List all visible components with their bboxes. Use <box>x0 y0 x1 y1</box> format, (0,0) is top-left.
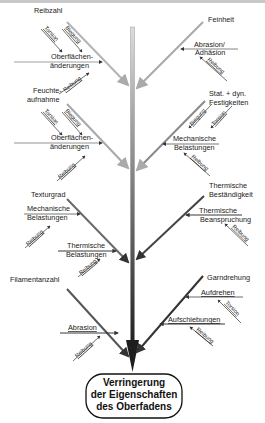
svg-text:Belastungen: Belastungen <box>174 143 215 152</box>
bone-reibzahl: Reibzahl Oberflächen- änderungen Torsion… <box>14 6 128 94</box>
svg-text:Thermische: Thermische <box>209 181 247 190</box>
svg-text:Oberflächen-: Oberflächen- <box>51 52 94 61</box>
bone-garndrehung: Garndrehung Aufdrehen Torsion Aufschiebu… <box>137 273 250 352</box>
bone-thermische-bestaendigkeit: Thermische Beständigkeit Thermische Bean… <box>137 181 253 259</box>
svg-text:Beanspruchung: Beanspruchung <box>200 215 251 224</box>
svg-text:Biegung: Biegung <box>188 107 206 126</box>
spine <box>126 27 139 372</box>
svg-text:Reibung: Reibung <box>57 161 77 179</box>
svg-text:Festigkeiten: Festigkeiten <box>209 98 248 107</box>
svg-text:Verringerung: Verringerung <box>103 377 165 388</box>
svg-text:Abrasion: Abrasion <box>68 323 97 332</box>
svg-text:des Oberfadens: des Oberfadens <box>96 401 172 412</box>
fishbone-diagram: Reibzahl Oberflächen- änderungen Torsion… <box>0 0 265 423</box>
svg-text:Reibung: Reibung <box>25 228 45 246</box>
svg-text:Reibung: Reibung <box>78 258 98 276</box>
svg-text:Oberflächen-: Oberflächen- <box>51 133 94 142</box>
svg-text:Reibung: Reibung <box>62 75 82 93</box>
svg-text:Reibung: Reibung <box>190 153 210 171</box>
bone-texturgrad: Texturgrad Mechanische Belastungen Reibu… <box>24 190 128 277</box>
svg-text:der Eigenschaften: der Eigenschaften <box>91 389 178 400</box>
svg-text:Beständigkeit: Beständigkeit <box>209 190 253 199</box>
effect-box: Verringerung der Eigenschaften des Oberf… <box>86 374 182 418</box>
svg-text:Thermische: Thermische <box>67 241 105 250</box>
cause-label-reibzahl: Reibzahl <box>34 6 63 15</box>
svg-text:Texturgrad: Texturgrad <box>31 190 65 199</box>
svg-text:Aufschiebungen: Aufschiebungen <box>168 315 220 324</box>
svg-text:Reibung: Reibung <box>195 326 215 344</box>
svg-text:Mechanische: Mechanische <box>173 134 216 143</box>
svg-text:Mechanische: Mechanische <box>27 204 70 213</box>
svg-text:Torsion: Torsion <box>224 300 241 317</box>
svg-text:Garndrehung: Garndrehung <box>207 273 250 282</box>
svg-text:Torsion: Torsion <box>43 108 60 125</box>
svg-text:Belastungen: Belastungen <box>27 213 68 222</box>
svg-text:Thermische: Thermische <box>199 206 237 215</box>
svg-text:Torsion: Torsion <box>210 109 227 126</box>
svg-text:änderungen: änderungen <box>50 142 89 151</box>
bone-filamentanzahl: Filamentanzahl Abrasion Reibung <box>10 275 128 361</box>
svg-text:Torsion: Torsion <box>43 25 60 42</box>
svg-text:änderungen: änderungen <box>50 61 89 70</box>
bone-festigkeiten: Stat. + dyn. Festigkeiten Mechanische Be… <box>137 89 248 176</box>
svg-text:Filamentanzahl: Filamentanzahl <box>10 275 60 284</box>
bone-feinheit: Feinheit Abrasion/ Adhäsion Reibung <box>137 15 238 88</box>
svg-text:Belastungen: Belastungen <box>66 250 107 259</box>
svg-text:Feinheit: Feinheit <box>208 15 234 24</box>
bone-feuchteaufnahme: Feuchte- aufnahme Oberflächen- änderunge… <box>14 86 128 181</box>
svg-text:aufnahme: aufnahme <box>27 95 59 104</box>
svg-text:Stat. + dyn.: Stat. + dyn. <box>209 89 246 98</box>
svg-text:Aufdrehen: Aufdrehen <box>201 288 235 297</box>
svg-text:Reibung: Reibung <box>74 340 94 358</box>
svg-text:Feuchte-: Feuchte- <box>33 86 62 95</box>
